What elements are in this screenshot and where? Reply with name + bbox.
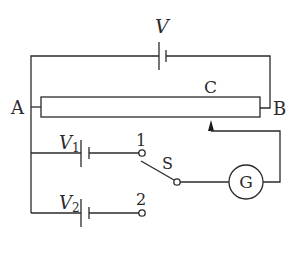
wire-top-right (166, 56, 270, 108)
end-a-label: A (10, 97, 25, 118)
switch-s[interactable]: S (141, 154, 180, 185)
terminal-2[interactable] (139, 210, 145, 216)
wire-top-left (31, 56, 159, 101)
galvanometer: G (180, 165, 263, 199)
main-battery-circuit: V (31, 15, 270, 108)
cell-v2-subscript: 2 (72, 201, 80, 215)
cell-v2-branch: V 2 (31, 192, 139, 227)
terminal-2-label: 2 (136, 190, 146, 209)
switch-pivot (174, 179, 180, 185)
resistance-wire (41, 97, 260, 117)
point-c-label: C (204, 77, 217, 97)
battery-v-label: V (155, 15, 171, 37)
end-b-label: B (273, 98, 286, 119)
jockey-arrow-icon[interactable] (208, 120, 214, 131)
cell-v1-subscript: 1 (72, 141, 80, 155)
circuit-diagram: V A B C V 1 V 2 1 2 S (0, 0, 295, 261)
slide-wire-ab: A B C (10, 77, 286, 119)
terminal-1[interactable] (139, 150, 145, 156)
terminal-1-label: 1 (136, 131, 146, 150)
switch-s-label: S (162, 154, 173, 173)
galvanometer-label: G (239, 172, 253, 192)
cell-v1-branch: V 1 (31, 132, 139, 167)
